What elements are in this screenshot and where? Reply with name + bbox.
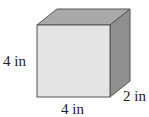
side-face	[110, 9, 130, 97]
front-face	[37, 25, 110, 97]
width-label: 4 in	[61, 101, 84, 117]
prism-diagram: 4 in 4 in 2 in	[0, 0, 149, 117]
height-label: 4 in	[3, 53, 26, 69]
depth-label: 2 in	[123, 88, 146, 104]
